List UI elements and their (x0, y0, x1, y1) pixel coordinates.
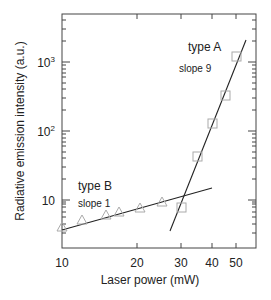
y-tick-label: 102 (37, 124, 55, 139)
y-tick-label: 10 (42, 194, 56, 208)
type-a-slope: slope 9 (179, 63, 212, 74)
type-b-markers (57, 197, 167, 231)
y-axis-label: Radiative emission intensity (a.u.) (13, 41, 27, 220)
y-tick-label: 103 (37, 55, 55, 70)
chart: 10 20 30 40 50 Laser power (mW) 10 102 1… (0, 0, 271, 300)
x-tick-label: 50 (229, 256, 243, 270)
x-tick-label: 10 (55, 256, 69, 270)
type-b-slope: slope 1 (78, 198, 111, 209)
x-tick-label: 40 (205, 256, 219, 270)
type-a-label: type A (188, 40, 221, 54)
type-b-label: type B (78, 179, 112, 193)
x-tick-label: 20 (130, 256, 144, 270)
plot-frame (62, 14, 256, 248)
x-axis-label: Laser power (mW) (101, 273, 200, 287)
x-tick-label: 30 (174, 256, 188, 270)
